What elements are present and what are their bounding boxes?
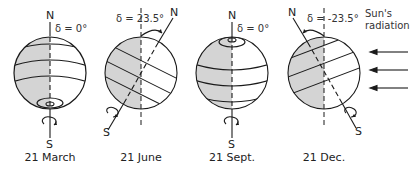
north-label-june: N: [170, 7, 178, 18]
south-label-march: S: [46, 139, 53, 150]
date-label-march: 21 March: [24, 152, 75, 163]
date-label-june: 21 June: [120, 152, 161, 163]
south-label-september: S: [228, 139, 235, 150]
globe-september: [194, 22, 270, 138]
date-label-september: 21 Sept.: [209, 152, 255, 163]
sun-radiation-label: Sun's radiation: [365, 8, 410, 32]
declination-label-march: δ = 0°: [55, 24, 87, 34]
sun-label-line2: radiation: [365, 20, 410, 32]
north-label-september: N: [228, 10, 236, 21]
declination-label-december: δ = -23.5°: [307, 14, 359, 24]
sun-radiation-arrows: [370, 50, 408, 91]
declination-label-september: δ = 0°: [237, 24, 269, 34]
globe-march: [12, 22, 88, 138]
globe-december: [280, 8, 370, 128]
globe-june: [100, 8, 180, 130]
sun-label-line1: Sun's: [365, 8, 410, 20]
south-label-december: S: [355, 126, 362, 137]
south-label-june: S: [103, 127, 110, 138]
north-label-december: N: [288, 7, 296, 18]
date-label-december: 21 Dec.: [303, 152, 345, 163]
declination-label-june: δ = 23.5°: [116, 14, 164, 24]
north-label-march: N: [46, 10, 54, 21]
